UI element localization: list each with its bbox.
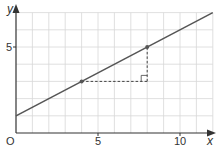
y-axis-label: y: [6, 2, 14, 16]
y-tick-label: 5: [6, 41, 12, 53]
x-tick-label: 5: [95, 135, 101, 145]
point-b: [145, 45, 149, 49]
grid: [16, 13, 213, 133]
x-tick-label: 10: [174, 135, 186, 145]
point-a: [80, 79, 84, 83]
right-angle-marker-icon: [141, 75, 147, 81]
axes: 5105: [6, 4, 216, 145]
chart: 5105 y x O: [0, 0, 216, 145]
labels: y x O: [6, 2, 214, 145]
x-axis-label: x: [206, 134, 214, 145]
origin-label: O: [6, 135, 15, 145]
y-axis-arrow-icon: [13, 4, 20, 13]
